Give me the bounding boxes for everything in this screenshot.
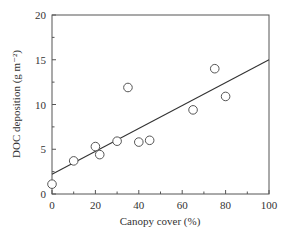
data-point — [91, 142, 100, 151]
y-axis-label: DOC deposition (g m⁻²) — [10, 50, 23, 158]
y-axis-ticks: 05101520 — [35, 9, 56, 200]
data-point — [48, 180, 57, 189]
x-tick-label: 20 — [90, 199, 102, 211]
data-point — [113, 137, 122, 146]
scatter-chart: 020406080100 05101520 Canopy cover (%) D… — [0, 0, 288, 240]
regression-line — [52, 60, 269, 175]
data-point — [95, 150, 104, 159]
x-tick-label: 40 — [133, 199, 145, 211]
y-tick-label: 5 — [41, 143, 47, 155]
data-point — [124, 83, 133, 92]
y-tick-label: 10 — [35, 99, 47, 111]
x-tick-label: 0 — [49, 199, 55, 211]
x-tick-label: 80 — [220, 199, 232, 211]
data-point — [189, 106, 198, 115]
x-tick-label: 100 — [261, 199, 278, 211]
x-axis-label: Canopy cover (%) — [120, 215, 201, 228]
data-points — [48, 64, 230, 188]
plot-frame — [52, 15, 269, 194]
y-tick-label: 0 — [41, 188, 47, 200]
data-point — [69, 157, 78, 166]
x-tick-label: 60 — [177, 199, 189, 211]
data-point — [135, 138, 144, 147]
data-point — [145, 136, 154, 145]
x-axis-ticks: 020406080100 — [49, 190, 278, 211]
y-tick-label: 20 — [35, 9, 47, 21]
data-point — [221, 92, 230, 101]
data-point — [210, 64, 219, 73]
y-tick-label: 15 — [35, 54, 47, 66]
